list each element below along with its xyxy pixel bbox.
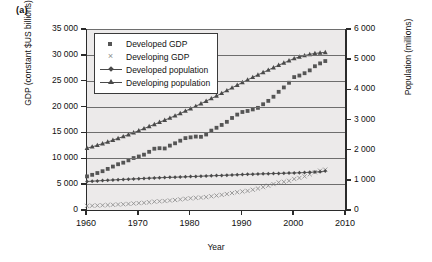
y-axis-left-tick-label: 30 000 xyxy=(26,49,78,59)
cross-marker-icon: × xyxy=(100,51,122,62)
x-axis-tick xyxy=(85,210,87,215)
y-axis-left-tick xyxy=(81,54,86,56)
legend-item: × Developing GDP xyxy=(100,50,210,63)
y-axis-left-tick xyxy=(81,28,86,30)
legend-item: Developed population xyxy=(100,63,210,76)
x-axis-tick xyxy=(344,210,346,215)
legend-item-label: Developed GDP xyxy=(126,39,187,49)
y-axis-left-tick xyxy=(81,106,86,108)
square-marker-icon xyxy=(100,38,122,49)
legend: Developed GDP × Developing GDP Developed… xyxy=(94,33,218,94)
series-developing-gdp xyxy=(85,168,327,208)
x-axis-tick-label: 2000 xyxy=(273,218,313,228)
y-axis-right-tick xyxy=(346,28,351,30)
y-axis-left-tick xyxy=(81,80,86,82)
figure-panel-a: (a) GDP (constant $US billions) Populati… xyxy=(0,0,432,262)
x-axis-tick xyxy=(189,210,191,215)
y-axis-right-tick xyxy=(346,89,351,91)
x-axis-tick-label: 1970 xyxy=(118,218,158,228)
gridline xyxy=(87,29,346,30)
y-axis-right-title: Population (millions) xyxy=(403,0,413,132)
x-axis-tick xyxy=(137,210,139,215)
legend-item: Developing population xyxy=(100,76,210,89)
y-axis-left-tick-label: 35 000 xyxy=(26,23,78,33)
y-axis-right-tick-label: 5 000 xyxy=(354,53,406,63)
y-axis-left-tick-label: 20 000 xyxy=(26,101,78,111)
y-axis-right-tick-label: 2 000 xyxy=(354,144,406,154)
y-axis-left-title: GDP (constant $US billions) xyxy=(23,0,33,133)
y-axis-left-tick-label: 5 000 xyxy=(26,178,78,188)
y-axis-right-tick xyxy=(346,209,351,211)
legend-item-label: Developing population xyxy=(126,78,210,88)
legend-item-label: Developed population xyxy=(126,65,208,75)
series-developed-population xyxy=(85,169,327,183)
y-axis-left-tick-label: 0 xyxy=(26,204,78,214)
y-axis-right-tick xyxy=(346,119,351,121)
line-diamond-marker-icon xyxy=(100,64,122,75)
x-axis-tick-label: 1990 xyxy=(221,218,261,228)
y-axis-left-tick-label: 25 000 xyxy=(26,75,78,85)
gridline xyxy=(87,184,346,185)
y-axis-left-tick xyxy=(81,132,86,134)
y-axis-left-tick-label: 15 000 xyxy=(26,126,78,136)
x-axis-tick xyxy=(292,210,294,215)
legend-item: Developed GDP xyxy=(100,37,210,50)
x-axis-title: Year xyxy=(0,242,432,252)
x-axis-tick xyxy=(241,210,243,215)
y-axis-right-tick xyxy=(346,58,351,60)
y-axis-right-tick-label: 4 000 xyxy=(354,83,406,93)
y-axis-left-tick xyxy=(81,183,86,185)
x-axis-tick-label: 1960 xyxy=(66,218,106,228)
y-axis-right-tick-label: 1 000 xyxy=(354,174,406,184)
gridline xyxy=(87,107,346,108)
gridline xyxy=(87,158,346,159)
y-axis-right-tick xyxy=(346,149,351,151)
y-axis-right-tick xyxy=(346,179,351,181)
x-axis-tick-label: 1980 xyxy=(170,218,210,228)
gridline xyxy=(87,132,346,133)
line-triangle-marker-icon xyxy=(100,77,122,88)
x-axis-tick-label: 2010 xyxy=(325,218,365,228)
y-axis-left-tick-label: 10 000 xyxy=(26,152,78,162)
y-axis-right-tick-label: 0 xyxy=(354,204,406,214)
y-axis-left-tick xyxy=(81,158,86,160)
legend-item-label: Developing GDP xyxy=(126,52,189,62)
y-axis-right-tick-label: 3 000 xyxy=(354,114,406,124)
y-axis-right-tick-label: 6 000 xyxy=(354,23,406,33)
